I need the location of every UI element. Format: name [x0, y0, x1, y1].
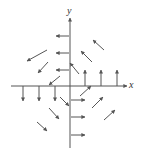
y-axis-label: y	[67, 5, 71, 16]
vector-arrow	[60, 97, 69, 106]
vector-arrow	[27, 50, 47, 61]
vector-field-diagram	[0, 0, 141, 156]
vector-arrow	[104, 110, 115, 120]
vector-arrow	[49, 76, 60, 85]
vector-arrow	[80, 86, 91, 96]
vector-arrow	[81, 51, 92, 62]
vector-arrow	[93, 40, 104, 50]
vector-arrow	[37, 122, 47, 131]
vector-arrow	[70, 63, 79, 74]
vector-arrow	[49, 108, 59, 119]
x-axis-label: x	[129, 79, 133, 90]
vector-arrow	[92, 97, 103, 108]
vector-arrow	[38, 62, 48, 73]
